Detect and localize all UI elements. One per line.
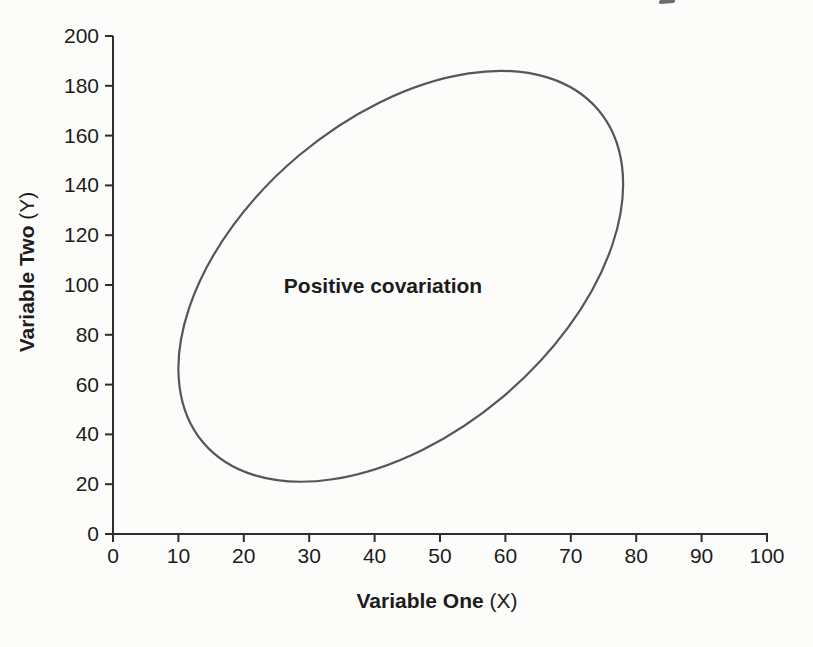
x-axis-title: Variable One(X) [356, 590, 517, 611]
y-tick-label-0: 0 [87, 522, 99, 545]
x-tick-label-60: 60 [494, 544, 517, 567]
x-tick-label-40: 40 [363, 544, 386, 567]
y-tick-label-160: 160 [64, 124, 99, 147]
ellipse-annotation: Positive covariation [284, 275, 482, 296]
x-tick-label-30: 30 [298, 544, 321, 567]
y-tick-label-200: 200 [64, 24, 99, 47]
y-tick-label-120: 120 [64, 223, 99, 246]
y-tick-label-80: 80 [76, 323, 99, 346]
y-tick-label-100: 100 [64, 273, 99, 296]
y-axis-title-name: Variable Two [15, 226, 38, 353]
x-tick-label-0: 0 [107, 544, 119, 567]
y-tick-label-180: 180 [64, 74, 99, 97]
x-axis-title-name: Variable One [356, 589, 483, 612]
x-tick-label-90: 90 [690, 544, 713, 567]
x-tick-label-50: 50 [428, 544, 451, 567]
covariation-chart: 0204060801001201401601802000102030405060… [0, 0, 813, 647]
x-tick-label-70: 70 [559, 544, 582, 567]
x-tick-label-100: 100 [749, 544, 784, 567]
x-axis-title-unit: (X) [490, 589, 518, 612]
y-axis-title: Variable Two(Y) [16, 192, 37, 353]
x-tick-label-80: 80 [625, 544, 648, 567]
y-tick-label-140: 140 [64, 173, 99, 196]
y-tick-label-20: 20 [76, 472, 99, 495]
y-tick-label-40: 40 [76, 422, 99, 445]
x-tick-label-10: 10 [167, 544, 190, 567]
y-tick-label-60: 60 [76, 373, 99, 396]
scanned-figure-page: 0204060801001201401601802000102030405060… [0, 0, 813, 647]
y-axis-title-unit: (Y) [15, 192, 38, 220]
x-tick-label-20: 20 [232, 544, 255, 567]
scan-artifact [661, 1, 673, 2]
